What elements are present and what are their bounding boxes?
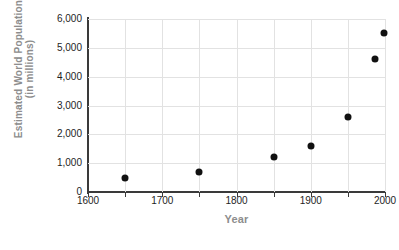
y-tick-label: 4,000 xyxy=(38,71,82,82)
gridline-vertical xyxy=(162,19,163,192)
x-axis-tick xyxy=(237,192,238,197)
gridline-vertical-minor xyxy=(199,19,200,192)
y-tick-label: 1,000 xyxy=(38,157,82,168)
x-axis-tick xyxy=(88,192,89,197)
gridline-vertical xyxy=(237,19,238,192)
gridline-vertical-minor xyxy=(274,19,275,192)
y-tick-label: 2,000 xyxy=(38,128,82,139)
gridline-vertical xyxy=(311,19,312,192)
data-point xyxy=(344,114,351,121)
data-point xyxy=(196,168,203,175)
gridline-vertical-minor xyxy=(348,19,349,192)
gridline-vertical-minor xyxy=(125,19,126,192)
data-point xyxy=(372,56,379,63)
y-tick-label: 5,000 xyxy=(38,42,82,53)
data-point xyxy=(122,174,129,181)
x-axis-tick xyxy=(125,192,126,197)
gridline-vertical xyxy=(385,19,386,192)
x-axis-tick xyxy=(274,192,275,197)
x-axis-tick xyxy=(162,192,163,197)
data-point xyxy=(307,142,314,149)
y-tick-label: 6,000 xyxy=(38,13,82,24)
population-scatter-chart: Estimated World Population (in millions)… xyxy=(0,0,399,250)
data-point xyxy=(270,154,277,161)
plot-area xyxy=(88,19,385,192)
x-axis-tick xyxy=(385,192,386,197)
x-axis-title: Year xyxy=(88,214,385,225)
x-axis-tick xyxy=(348,192,349,197)
y-axis-title: Estimated World Population (in millions) xyxy=(13,0,35,149)
x-axis-tick xyxy=(311,192,312,197)
data-point xyxy=(381,30,388,37)
y-tick-label: 3,000 xyxy=(38,100,82,111)
x-tick-label: 2000 xyxy=(363,195,399,206)
x-axis-tick xyxy=(199,192,200,197)
